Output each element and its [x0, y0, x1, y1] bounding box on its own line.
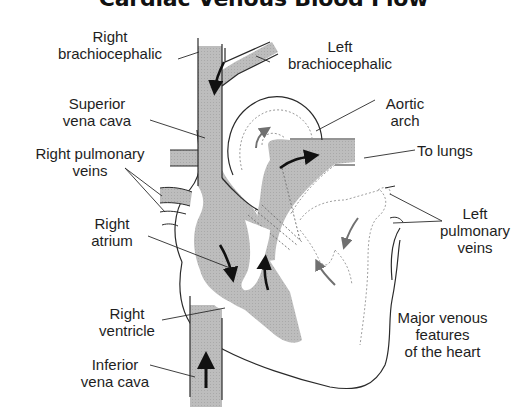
leader-aortic-arch-1 [316, 100, 375, 131]
arrow-lv-up [318, 264, 335, 285]
label-left-brachiocephalic: Left brachiocephalic [270, 38, 410, 72]
label-left-pulmonary-veins: Left pulmonary veins [430, 205, 520, 256]
right-pulmonary-veins [160, 150, 198, 226]
leader-right-brachiocephalic [178, 52, 199, 59]
label-superior-vena-cava: Superior vena cava [52, 95, 142, 129]
label-right-pulmonary-veins: Right pulmonary veins [20, 145, 160, 179]
label-inferior-vena-cava: Inferior vena cava [70, 356, 160, 390]
label-right-atrium: Right atrium [82, 215, 142, 249]
diagram-caption: Major venous features of the heart [385, 309, 500, 360]
label-aortic-arch: Aortic arch [375, 95, 435, 129]
label-to-lungs: To lungs [417, 142, 497, 159]
label-right-brachiocephalic: Right brachiocephalic [40, 28, 180, 62]
arrow-aorta-up [256, 130, 266, 148]
label-right-ventricle: Right ventricle [92, 305, 162, 339]
inferior-vena-cava [190, 296, 222, 407]
left-pulmonary-veins [385, 186, 403, 280]
arrow-lv-down [345, 218, 358, 244]
leader-superior-vena-cava [150, 120, 205, 138]
leader-to-lungs [364, 150, 415, 158]
left-heart [300, 188, 390, 345]
